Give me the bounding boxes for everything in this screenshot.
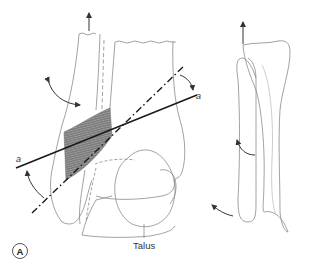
lateral-rotation-arrow-lower-icon [212, 205, 233, 216]
axis-label-right: a [196, 91, 201, 101]
syndesmosis-hatched-region [64, 108, 112, 180]
fibula-rotation-arrow-icon [48, 80, 80, 105]
ankle-diagram: a a Talus A [0, 0, 311, 269]
talus-outline [82, 150, 176, 238]
talus-label: Talus [133, 240, 155, 251]
axis-angle-arrow-left-icon [27, 171, 44, 198]
lateral-view-bones [237, 41, 290, 232]
bimalleolar-axis-dash-dot [32, 65, 185, 213]
axis-angle-arrow-right-icon [180, 75, 193, 90]
transmalleolar-axis-solid [16, 95, 197, 168]
panel-label-badge: A [12, 243, 28, 259]
axis-label-left: a [16, 154, 21, 164]
